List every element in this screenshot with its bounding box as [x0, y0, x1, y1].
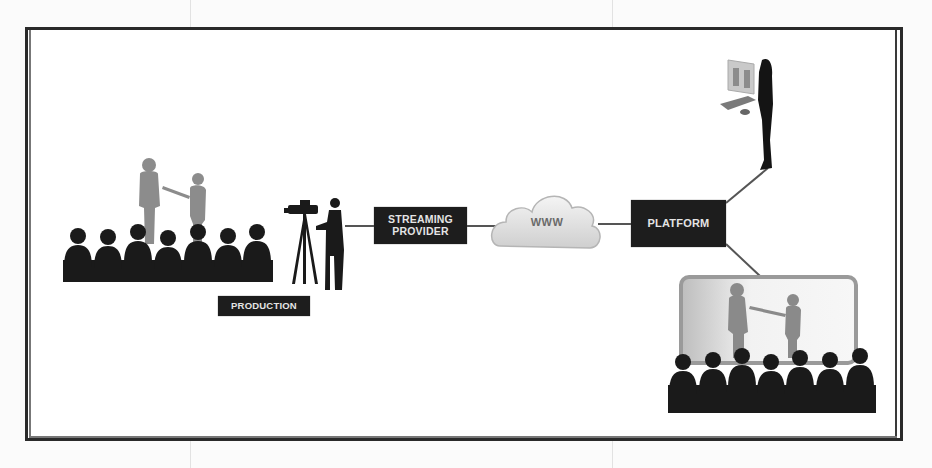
streaming-provider-node: STREAMING PROVIDER — [374, 207, 467, 244]
remote-viewer — [720, 59, 773, 170]
live-audience — [63, 224, 273, 282]
platform-label: PLATFORM — [648, 217, 710, 229]
remote-audience — [668, 277, 876, 413]
camera-operator — [284, 198, 344, 290]
streaming-provider-label-line2: PROVIDER — [388, 226, 453, 238]
production-label: PRODUCTION — [231, 301, 297, 311]
platform-node: PLATFORM — [631, 200, 726, 247]
streaming-provider-label-line1: STREAMING — [388, 214, 453, 226]
www-label: WWW — [524, 216, 570, 228]
production-node: PRODUCTION — [218, 296, 310, 316]
